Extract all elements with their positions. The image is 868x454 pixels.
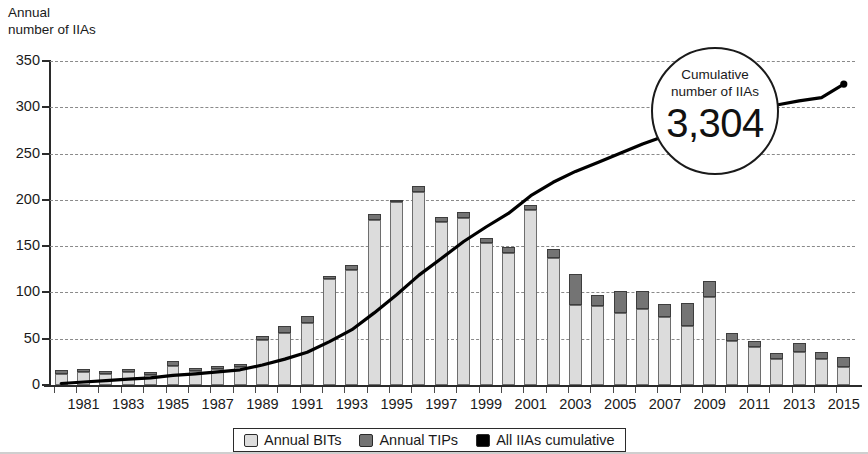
x-tick-label-2005: 2005 xyxy=(597,396,643,412)
y-tick-label-200: 200 xyxy=(0,191,40,207)
bar-segment-bits-1988 xyxy=(234,367,247,385)
dark-gray-square-icon xyxy=(359,434,373,447)
bar-segment-bits-2013 xyxy=(793,352,806,385)
bar-segment-tips-1985 xyxy=(167,361,180,366)
x-tick-2009 xyxy=(702,387,703,393)
bar-segment-tips-2002 xyxy=(547,249,560,258)
x-tick-label-1981: 1981 xyxy=(61,396,107,412)
bar-segment-tips-2008 xyxy=(681,303,694,326)
bar-2012 xyxy=(770,353,783,385)
bar-2004 xyxy=(591,295,604,385)
bar-segment-tips-2010 xyxy=(726,333,739,340)
bar-segment-bits-1985 xyxy=(167,366,180,385)
x-tick-2006 xyxy=(635,387,636,393)
bar-segment-bits-2008 xyxy=(681,326,694,385)
x-tick-2007 xyxy=(657,387,658,393)
bar-1987 xyxy=(211,366,224,385)
bar-1985 xyxy=(167,361,180,385)
bar-segment-bits-2012 xyxy=(770,359,783,385)
bar-segment-bits-1996 xyxy=(412,192,425,385)
bar-segment-tips-1991 xyxy=(301,316,314,323)
iia-chart: 050100150200250300350 198119831985198719… xyxy=(0,0,868,454)
bar-segment-tips-2000 xyxy=(502,247,515,253)
bar-1998 xyxy=(457,212,470,385)
bar-segment-bits-1986 xyxy=(189,371,202,385)
bar-segment-bits-1983 xyxy=(122,372,135,385)
x-tick-2015 xyxy=(836,387,837,393)
y-tick-label-350: 350 xyxy=(0,52,40,68)
gridline-100 xyxy=(50,292,855,293)
x-tick-label-2011: 2011 xyxy=(731,396,777,412)
bar-1996 xyxy=(412,186,425,385)
bar-segment-tips-2005 xyxy=(614,291,627,313)
bar-segment-bits-2006 xyxy=(636,309,649,385)
x-tick-1983 xyxy=(121,387,122,393)
bar-2003 xyxy=(569,274,582,385)
x-tick-label-2013: 2013 xyxy=(776,396,822,412)
bar-1982 xyxy=(99,371,112,385)
black-square-icon xyxy=(476,434,490,447)
x-tick-label-1999: 1999 xyxy=(463,396,509,412)
x-tick-2011 xyxy=(747,387,748,393)
bar-1993 xyxy=(345,265,358,385)
bar-1986 xyxy=(189,368,202,385)
x-tick-1991 xyxy=(300,387,301,393)
bar-segment-tips-2012 xyxy=(770,353,783,359)
chart-legend: Annual BITs Annual TIPs All IIAs cumulat… xyxy=(233,428,626,452)
bar-2015 xyxy=(837,357,850,385)
bar-1980 xyxy=(55,370,68,385)
x-tick-label-2003: 2003 xyxy=(552,396,598,412)
bar-segment-bits-1991 xyxy=(301,323,314,385)
x-tick-1984 xyxy=(143,387,144,393)
x-tick-label-1997: 1997 xyxy=(418,396,464,412)
x-tick-2012 xyxy=(769,387,770,393)
x-tick-label-1993: 1993 xyxy=(329,396,375,412)
bar-1983 xyxy=(122,369,135,385)
bar-segment-tips-2015 xyxy=(837,357,850,366)
x-tick-1988 xyxy=(233,387,234,393)
bar-segment-tips-1994 xyxy=(368,214,381,220)
bar-segment-bits-2004 xyxy=(591,306,604,385)
bar-segment-tips-1982 xyxy=(99,371,112,374)
x-tick-1987 xyxy=(210,387,211,393)
bar-2013 xyxy=(793,343,806,385)
x-tick-1996 xyxy=(411,387,412,393)
x-tick-1989 xyxy=(255,387,256,393)
x-tick-2013 xyxy=(792,387,793,393)
bar-2000 xyxy=(502,247,515,385)
bar-segment-bits-2010 xyxy=(726,341,739,385)
bar-2010 xyxy=(726,333,739,385)
bar-segment-bits-2014 xyxy=(815,359,828,385)
bar-segment-tips-1980 xyxy=(55,370,68,374)
x-tick-1999 xyxy=(479,387,480,393)
x-tick-label-2001: 2001 xyxy=(508,396,554,412)
x-tick-label-2015: 2015 xyxy=(821,396,867,412)
y-tick-label-50: 50 xyxy=(0,330,40,346)
bar-segment-tips-2013 xyxy=(793,343,806,351)
x-tick-label-1983: 1983 xyxy=(105,396,151,412)
bar-segment-tips-1987 xyxy=(211,366,224,370)
x-tick-2004 xyxy=(590,387,591,393)
x-tick-label-1985: 1985 xyxy=(150,396,196,412)
bar-segment-tips-1999 xyxy=(480,238,493,244)
x-tick-label-1987: 1987 xyxy=(195,396,241,412)
bar-segment-tips-2011 xyxy=(748,341,761,347)
bar-segment-tips-2003 xyxy=(569,274,582,305)
bar-segment-bits-1990 xyxy=(278,333,291,385)
bar-segment-tips-2004 xyxy=(591,295,604,306)
bar-segment-bits-2001 xyxy=(524,210,537,385)
x-tick-1985 xyxy=(166,387,167,393)
bar-segment-tips-2001 xyxy=(524,205,537,211)
bar-1994 xyxy=(368,214,381,385)
bar-segment-tips-2007 xyxy=(658,304,671,318)
bar-segment-tips-1983 xyxy=(122,369,135,372)
legend-item-all-iias-cumulative: All IIAs cumulative xyxy=(476,432,614,448)
bar-2014 xyxy=(815,352,828,385)
callout-value: 3,304 xyxy=(653,101,777,146)
bar-1997 xyxy=(435,217,448,385)
x-tick-label-1995: 1995 xyxy=(374,396,420,412)
x-tick-2014 xyxy=(814,387,815,393)
bar-2008 xyxy=(681,303,694,385)
bar-segment-bits-2003 xyxy=(569,305,582,385)
y-tick-label-150: 150 xyxy=(0,237,40,253)
